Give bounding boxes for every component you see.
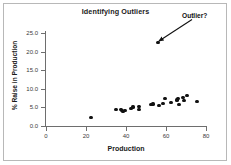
data-point (157, 104, 160, 107)
x-tick-label: 80 (196, 133, 216, 139)
data-point (137, 108, 140, 111)
data-point (114, 108, 117, 111)
scatter-plot-area (46, 33, 206, 126)
x-tick-label: 40 (116, 133, 136, 139)
x-tick-mark (86, 127, 87, 131)
y-tick-label: 0.0 (12, 123, 38, 129)
x-tick-mark (126, 127, 127, 131)
data-point (151, 102, 154, 105)
outlier-annotation-label: Outlier? (182, 12, 207, 19)
y-tick-mark (41, 70, 45, 71)
y-tick-mark (41, 89, 45, 90)
x-tick-label: 20 (76, 133, 96, 139)
data-point (163, 97, 166, 100)
data-point (89, 116, 92, 119)
x-tick-label: 60 (156, 133, 176, 139)
data-point (177, 103, 180, 106)
y-tick-mark (41, 126, 45, 127)
y-axis-title: % Raise in Production (11, 33, 18, 119)
data-point (123, 109, 126, 112)
y-tick-mark (41, 33, 45, 34)
x-tick-mark (206, 127, 207, 131)
x-tick-mark (166, 127, 167, 131)
data-point (176, 97, 179, 100)
data-point (195, 100, 198, 103)
data-point (169, 101, 172, 104)
data-point (185, 94, 188, 97)
data-point (182, 99, 185, 102)
x-tick-label: 0 (36, 133, 56, 139)
x-tick-mark (46, 127, 47, 131)
x-axis-title: Production (46, 145, 206, 152)
data-point (131, 105, 134, 108)
data-point (156, 41, 159, 44)
data-point (161, 102, 164, 105)
y-tick-mark (41, 107, 45, 108)
chart-figure: Identifying Outliers 0.05.010.015.020.02… (0, 0, 231, 165)
y-tick-mark (41, 52, 45, 53)
